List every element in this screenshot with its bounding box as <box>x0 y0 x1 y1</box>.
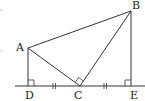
right-angle-c <box>75 77 83 82</box>
right-angle-d <box>28 80 34 86</box>
label-c: C <box>74 89 82 101</box>
geometry-diagram: A B C D E <box>0 0 145 101</box>
label-b: B <box>132 0 140 12</box>
right-angle-e <box>125 80 131 86</box>
label-a: A <box>15 41 25 54</box>
segment-bc <box>80 11 131 86</box>
label-d: D <box>25 89 34 101</box>
scan-artifact-dot <box>0 50 2 52</box>
segment-ab <box>28 11 131 48</box>
segment-ac <box>28 48 80 86</box>
scan-artifact-dot <box>0 9 2 11</box>
label-e: E <box>130 89 138 101</box>
